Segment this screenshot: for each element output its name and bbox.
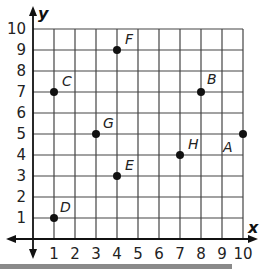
point-label-c: C: [62, 73, 72, 89]
plotted-points: ABCDEFGH: [50, 31, 247, 222]
point-marker-d: [50, 214, 58, 222]
y-axis-label: y: [38, 4, 49, 23]
x-tick-label: 5: [133, 245, 143, 263]
x-axis-label: x: [247, 218, 259, 237]
x-tick-label: 3: [91, 245, 101, 263]
y-tick-label: 8: [16, 62, 26, 80]
tick-labels: 1234567891012345678910: [7, 20, 253, 263]
x-tick-label: 10: [233, 245, 252, 263]
y-tick-label: 6: [16, 104, 26, 122]
point-marker-g: [92, 130, 100, 138]
point-label-f: F: [125, 31, 134, 47]
point-label-d: D: [60, 199, 71, 215]
x-tick-label: 6: [154, 245, 164, 263]
point-marker-b: [197, 88, 205, 96]
point-label-b: B: [207, 71, 217, 87]
point-label-g: G: [103, 115, 114, 131]
y-tick-label: 3: [16, 167, 26, 185]
x-tick-label: 7: [175, 245, 185, 263]
x-tick-label: 8: [196, 245, 206, 263]
y-tick-label: 7: [16, 83, 26, 101]
point-marker-a: [239, 130, 247, 138]
point-label-h: H: [188, 136, 199, 152]
y-axis-arrow-down-icon: [29, 249, 37, 259]
y-tick-label: 5: [16, 125, 26, 143]
point-marker-h: [176, 151, 184, 159]
x-tick-label: 4: [112, 245, 122, 263]
y-tick-label: 10: [7, 20, 26, 38]
y-tick-label: 1: [16, 209, 26, 227]
x-axis-arrow-left-icon: [6, 235, 16, 243]
y-tick-label: 4: [16, 146, 26, 164]
point-marker-f: [113, 46, 121, 54]
page-divider-bar: [0, 264, 232, 269]
point-marker-c: [50, 88, 58, 96]
point-marker-e: [113, 172, 121, 180]
x-tick-label: 1: [49, 245, 59, 263]
y-tick-label: 2: [16, 188, 26, 206]
point-label-e: E: [125, 157, 134, 173]
y-tick-label: 9: [16, 41, 26, 59]
point-label-a: A: [222, 139, 233, 155]
x-tick-label: 9: [217, 245, 227, 263]
coordinate-grid: 1234567891012345678910 ABCDEFGH y x: [0, 0, 264, 273]
x-tick-label: 2: [70, 245, 80, 263]
y-axis-arrow-up-icon: [29, 6, 37, 16]
